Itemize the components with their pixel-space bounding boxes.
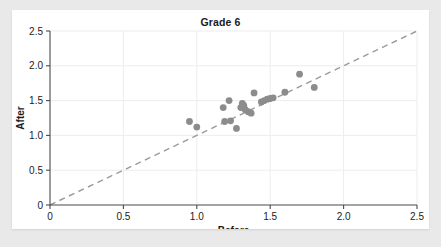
scatter-plot: 00.51.01.52.02.5 00.51.01.52.02.5 After … bbox=[12, 10, 429, 229]
y-tick-label: 2.0 bbox=[29, 60, 43, 71]
x-tick-label: 2.5 bbox=[410, 211, 424, 222]
x-tick-labels: 00.51.01.52.02.5 bbox=[47, 211, 424, 222]
data-point bbox=[221, 118, 228, 125]
data-points bbox=[186, 71, 318, 132]
y-tick-marks bbox=[46, 31, 50, 205]
page-background: Grade 6 00.51.01.52.02.5 00.51.01.52.02.… bbox=[0, 0, 441, 247]
data-point bbox=[186, 118, 193, 125]
y-tick-label: 0.5 bbox=[29, 165, 43, 176]
data-point bbox=[270, 94, 277, 101]
y-tick-label: 1.0 bbox=[29, 130, 43, 141]
data-point bbox=[193, 124, 200, 131]
chart-card: Grade 6 00.51.01.52.02.5 00.51.01.52.02.… bbox=[12, 10, 429, 229]
x-tick-label: 0 bbox=[47, 211, 53, 222]
data-point bbox=[220, 104, 227, 111]
x-tick-label: 1.5 bbox=[263, 211, 277, 222]
y-tick-label: 0 bbox=[37, 200, 43, 211]
reference-line-group bbox=[50, 31, 417, 205]
y-tick-label: 2.5 bbox=[29, 26, 43, 37]
data-point bbox=[296, 71, 303, 78]
x-tick-marks bbox=[50, 205, 417, 209]
x-axis-title: Before bbox=[218, 225, 250, 229]
data-point bbox=[227, 117, 234, 124]
y-tick-labels: 00.51.01.52.02.5 bbox=[29, 26, 43, 211]
x-tick-label: 2.0 bbox=[337, 211, 351, 222]
y-tick-label: 1.5 bbox=[29, 95, 43, 106]
data-point bbox=[311, 84, 318, 91]
y-axis-title: After bbox=[15, 106, 26, 129]
data-point bbox=[233, 125, 240, 132]
x-tick-label: 1.0 bbox=[190, 211, 204, 222]
x-tick-label: 0.5 bbox=[116, 211, 130, 222]
reference-line-y-equals-x bbox=[50, 31, 417, 205]
data-point bbox=[281, 89, 288, 96]
data-point bbox=[248, 110, 255, 117]
data-point bbox=[251, 90, 258, 97]
data-point bbox=[226, 97, 233, 104]
